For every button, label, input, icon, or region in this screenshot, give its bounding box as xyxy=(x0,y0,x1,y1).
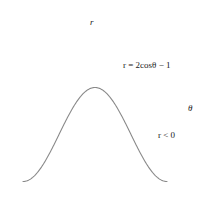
label-overlay xyxy=(0,0,204,199)
polar-function-graph-figure: r θ r = 2cosθ − 1 r < 0 xyxy=(0,0,204,199)
